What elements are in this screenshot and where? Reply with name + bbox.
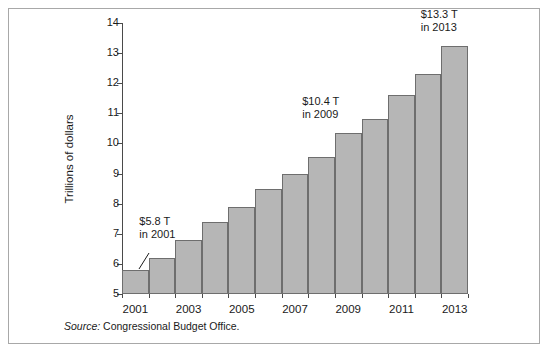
y-axis-tick-label: 14 bbox=[107, 16, 119, 29]
y-axis-title: Trillions of dollars bbox=[61, 23, 77, 294]
x-axis-tick-mark bbox=[441, 294, 442, 298]
bar bbox=[441, 46, 468, 294]
bar bbox=[388, 95, 415, 294]
y-axis-tick-label: 8 bbox=[113, 197, 119, 210]
y-axis-tick-label: 13 bbox=[107, 46, 119, 59]
y-axis-tick: 11 bbox=[122, 113, 123, 114]
annotation-value: $5.8 T bbox=[139, 215, 170, 227]
source-label: Source: bbox=[64, 320, 100, 332]
x-axis-tick-mark bbox=[415, 294, 416, 298]
plot-area: 141312111098765 200120032005200720092011… bbox=[122, 23, 468, 294]
bar bbox=[149, 258, 176, 294]
x-axis-tick-mark bbox=[335, 294, 336, 298]
y-axis-tick: 10 bbox=[122, 143, 123, 144]
annotation-year: in 2001 bbox=[139, 228, 175, 241]
y-axis-title-text: Trillions of dollars bbox=[63, 114, 75, 203]
y-axis-tick: 13 bbox=[122, 53, 123, 54]
x-axis-tick-label: 2003 bbox=[176, 302, 202, 316]
x-axis-tick-mark bbox=[202, 294, 203, 298]
y-axis-tick: 7 bbox=[122, 234, 123, 235]
bar bbox=[282, 174, 309, 294]
y-axis-tick-label: 10 bbox=[107, 136, 119, 149]
bar-annotation: $5.8 Tin 2001 bbox=[139, 215, 175, 241]
annotation-value: $10.4 T bbox=[302, 95, 339, 107]
bar bbox=[228, 207, 255, 294]
annotation-value: $13.3 T bbox=[421, 8, 458, 20]
annotation-year: in 2013 bbox=[421, 21, 458, 34]
annotation-year: in 2009 bbox=[302, 108, 339, 121]
x-axis-tick-mark bbox=[282, 294, 283, 298]
x-axis-tick-label: 2007 bbox=[282, 302, 308, 316]
bar bbox=[175, 240, 202, 294]
y-axis-tick-label: 7 bbox=[113, 227, 119, 240]
x-axis-tick-mark bbox=[388, 294, 389, 298]
bar bbox=[362, 119, 389, 294]
source-text: Congressional Budget Office. bbox=[103, 320, 239, 332]
y-axis-tick-label: 12 bbox=[107, 76, 119, 89]
bar bbox=[122, 270, 149, 294]
y-axis-tick-label: 6 bbox=[113, 257, 119, 270]
x-axis-tick-mark bbox=[362, 294, 363, 298]
x-axis-tick-label: 2013 bbox=[442, 302, 468, 316]
bar bbox=[202, 222, 229, 294]
x-axis-tick-mark bbox=[175, 294, 176, 298]
y-axis-tick-label: 5 bbox=[113, 287, 119, 300]
y-axis-tick: 12 bbox=[122, 83, 123, 84]
x-axis-tick-label: 2001 bbox=[123, 302, 149, 316]
x-axis-tick-label: 2011 bbox=[389, 302, 414, 316]
x-axis-tick-mark bbox=[228, 294, 229, 298]
x-axis-tick-mark bbox=[308, 294, 309, 298]
bar bbox=[335, 133, 362, 294]
source-note: Source: Congressional Budget Office. bbox=[64, 320, 240, 333]
x-axis-tick-label: 2005 bbox=[229, 302, 255, 316]
x-axis-tick-mark bbox=[255, 294, 256, 298]
bar-annotation: $10.4 Tin 2009 bbox=[302, 95, 339, 121]
y-axis-tick: 8 bbox=[122, 204, 123, 205]
bar-annotation: $13.3 Tin 2013 bbox=[421, 8, 458, 34]
y-axis-tick: 14 bbox=[122, 23, 123, 24]
y-axis-tick-label: 9 bbox=[113, 167, 119, 180]
y-axis-tick: 9 bbox=[122, 174, 123, 175]
bar bbox=[308, 157, 335, 294]
y-axis-tick: 6 bbox=[122, 264, 123, 265]
y-axis-line bbox=[122, 23, 123, 294]
x-axis-tick-mark bbox=[468, 294, 469, 298]
x-axis-tick-mark bbox=[122, 294, 123, 298]
bar bbox=[255, 189, 282, 294]
x-axis-tick-mark bbox=[149, 294, 150, 298]
y-axis-tick-label: 11 bbox=[108, 106, 119, 119]
x-axis-tick-label: 2009 bbox=[335, 302, 361, 316]
figure-frame: Trillions of dollars 141312111098765 200… bbox=[8, 8, 540, 344]
bar bbox=[415, 74, 442, 294]
